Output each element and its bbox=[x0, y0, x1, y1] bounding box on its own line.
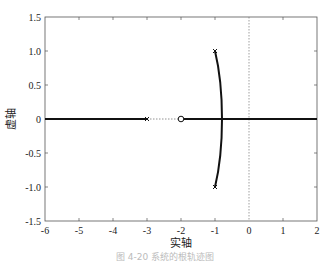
svg-text:0: 0 bbox=[247, 225, 252, 236]
svg-text:1.5: 1.5 bbox=[29, 12, 42, 23]
svg-text:-1.5: -1.5 bbox=[25, 216, 41, 227]
figure-caption: 图 4-20 系统的根轨迹图 bbox=[116, 251, 214, 262]
zero-marker bbox=[178, 116, 184, 122]
svg-text:-6: -6 bbox=[41, 225, 49, 236]
svg-text:-2: -2 bbox=[177, 225, 185, 236]
x-tick-labels: -6 -5 -4 -3 -2 -1 0 1 2 bbox=[41, 225, 320, 236]
svg-text:-1.0: -1.0 bbox=[25, 182, 41, 193]
root-locus-chart: 1.5 1.0 0.5 0 -0.5 -1.0 -1.5 -6 -5 -4 -3… bbox=[0, 0, 331, 262]
svg-text:2: 2 bbox=[315, 225, 320, 236]
svg-text:-5: -5 bbox=[75, 225, 83, 236]
svg-text:-1: -1 bbox=[211, 225, 219, 236]
svg-text:-3: -3 bbox=[143, 225, 151, 236]
svg-text:-4: -4 bbox=[109, 225, 117, 236]
svg-text:1.0: 1.0 bbox=[29, 46, 42, 57]
y-tick-labels: 1.5 1.0 0.5 0 -0.5 -1.0 -1.5 bbox=[25, 12, 41, 227]
svg-text:-0.5: -0.5 bbox=[25, 148, 41, 159]
svg-text:0: 0 bbox=[36, 114, 41, 125]
y-axis-label: 虚轴 bbox=[4, 108, 18, 130]
svg-text:0.5: 0.5 bbox=[29, 80, 42, 91]
svg-text:1: 1 bbox=[281, 225, 286, 236]
x-axis-label: 实轴 bbox=[170, 236, 192, 250]
